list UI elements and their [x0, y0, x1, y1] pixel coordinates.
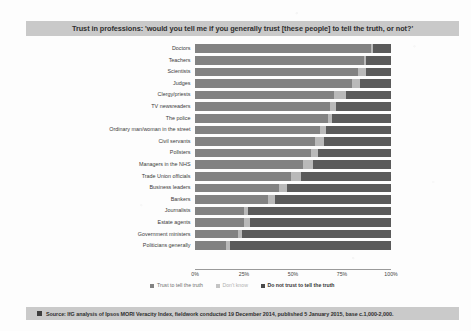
bar-segment — [195, 218, 244, 227]
stacked-bar — [195, 184, 391, 193]
bar-segment — [195, 79, 352, 88]
bar-segment — [326, 126, 391, 135]
stacked-bar — [195, 172, 391, 181]
category-label: Trade Union officials — [41, 174, 191, 179]
x-axis-line — [195, 269, 391, 270]
legend-label: Don't know — [222, 283, 248, 288]
source-banner: Source: IfG analysis of Ipsos MORI Verac… — [26, 307, 459, 320]
category-label: Government ministers — [41, 232, 191, 237]
category-label: Politicians generally — [41, 243, 191, 248]
bar-segment — [195, 102, 330, 111]
category-label: Scientists — [41, 69, 191, 74]
bar-row: Journalists — [26, 205, 459, 217]
category-label: Journalists — [41, 208, 191, 213]
bar-row: Politicians generally — [26, 240, 459, 252]
legend-label: Do not trust to tell the truth — [267, 283, 334, 288]
stacked-bar — [195, 114, 391, 123]
chart-title: Trust in professions: 'would you tell me… — [72, 24, 413, 33]
bar-segment — [366, 56, 391, 65]
stacked-bar — [195, 230, 391, 239]
category-label: Managers in the NHS — [41, 162, 191, 167]
bar-row: Managers in the NHS — [26, 159, 459, 171]
bar-segment — [195, 44, 371, 53]
legend-swatch-icon — [150, 284, 154, 288]
bar-row: Doctors — [26, 43, 459, 55]
bar-segment — [195, 68, 358, 77]
bar-row: Bankers — [26, 194, 459, 206]
stacked-bar — [195, 160, 391, 169]
chart-area: DoctorsTeachersScientistsJudgesClergy/pr… — [26, 40, 459, 300]
stacked-bar — [195, 137, 391, 146]
axis-tick-label: 50% — [288, 271, 298, 277]
category-label: Clergy/priests — [41, 92, 191, 97]
bar-segment — [303, 160, 313, 169]
bar-row: TV newsreaders — [26, 101, 459, 113]
bar-segment — [315, 137, 325, 146]
bar-row: Government ministers — [26, 229, 459, 241]
stacked-bar — [195, 56, 391, 65]
category-label: Teachers — [41, 58, 191, 63]
bar-segment — [195, 91, 334, 100]
stacked-bar — [195, 195, 391, 204]
chart-page: Trust in professions: 'would you tell me… — [0, 0, 471, 331]
bar-segment — [195, 160, 303, 169]
bar-segment — [279, 184, 287, 193]
stacked-bar — [195, 44, 391, 53]
bar-row: Pollsters — [26, 147, 459, 159]
legend-item[interactable]: Don't know — [216, 283, 248, 288]
legend-item[interactable]: Do not trust to tell the truth — [261, 283, 335, 288]
bar-row: Ordinary man/woman in the street — [26, 124, 459, 136]
stacked-bar — [195, 149, 391, 158]
bar-row: Trade Union officials — [26, 171, 459, 183]
bar-segment — [195, 137, 315, 146]
bar-segment — [195, 126, 320, 135]
bar-segment — [360, 79, 391, 88]
bar-segment — [336, 102, 391, 111]
category-label: Judges — [41, 81, 191, 86]
bar-segment — [230, 241, 391, 250]
bar-segment — [248, 207, 391, 216]
category-label: Ordinary man/woman in the street — [41, 127, 191, 132]
source-text: Source: IfG analysis of Ipsos MORI Verac… — [46, 311, 393, 317]
stacked-bar — [195, 68, 391, 77]
source-swatch-icon — [37, 311, 42, 316]
legend-label: Trust to tell the truth — [157, 283, 203, 288]
bar-segment — [311, 149, 319, 158]
axis-tick-label: 0% — [191, 271, 199, 277]
stacked-bar — [195, 241, 391, 250]
stacked-bar — [195, 126, 391, 135]
stacked-bar — [195, 218, 391, 227]
bar-segment — [291, 172, 301, 181]
bar-segment — [275, 195, 391, 204]
category-label: Bankers — [41, 197, 191, 202]
bar-segment — [373, 44, 391, 53]
bar-segment — [195, 184, 279, 193]
category-label: Pollsters — [41, 150, 191, 155]
legend-swatch-icon — [261, 284, 265, 288]
bar-segment — [195, 230, 238, 239]
bar-segment — [195, 114, 328, 123]
bar-segment — [195, 172, 291, 181]
bar-segment — [324, 137, 391, 146]
stacked-bar — [195, 207, 391, 216]
bar-segment — [195, 149, 311, 158]
stacked-bar — [195, 79, 391, 88]
category-label: The police — [41, 116, 191, 121]
axis-tick-label: 25% — [239, 271, 249, 277]
category-label: TV newsreaders — [41, 104, 191, 109]
bar-row: Estate agents — [26, 217, 459, 229]
bar-segment — [334, 91, 346, 100]
bar-segment — [195, 241, 226, 250]
bar-segment — [301, 172, 391, 181]
bar-segment — [352, 79, 360, 88]
bar-row: Judges — [26, 78, 459, 90]
bar-segment — [366, 68, 391, 77]
category-label: Civil servants — [41, 139, 191, 144]
legend-swatch-icon — [216, 284, 220, 288]
bar-row: Civil servants — [26, 136, 459, 148]
bar-row: Scientists — [26, 66, 459, 78]
bar-segment — [287, 184, 391, 193]
bar-segment — [195, 207, 244, 216]
bar-segment — [250, 218, 391, 227]
legend-item[interactable]: Trust to tell the truth — [150, 283, 202, 288]
